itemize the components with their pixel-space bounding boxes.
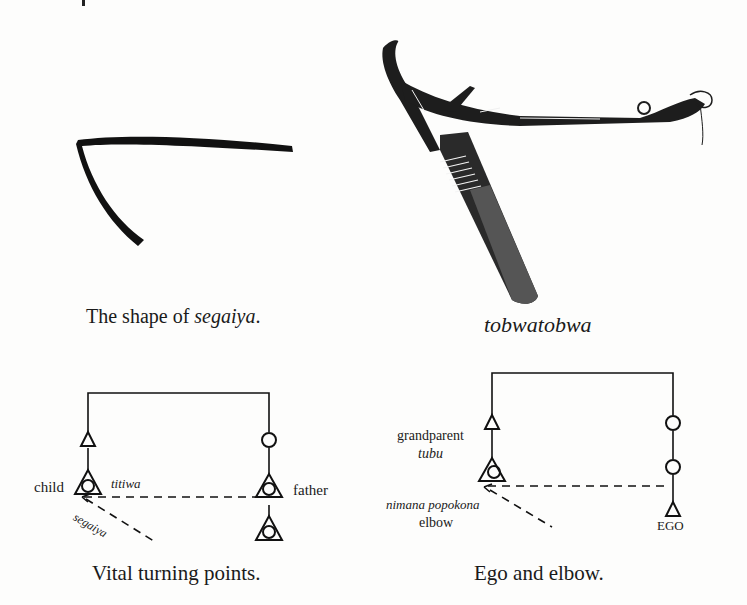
- diagram-right-lines: [484, 373, 673, 527]
- tobwatobwa-illustration: [382, 40, 712, 303]
- label-father: father: [293, 482, 328, 499]
- female-circle-icon: [82, 480, 94, 492]
- male-triangle-icon: [81, 432, 95, 446]
- label-tubu: tubu: [418, 446, 443, 462]
- diagram-right-symbols: [479, 415, 680, 516]
- male-triangle-icon: [666, 502, 680, 516]
- caption-segaiya-shape: The shape of segaiya.: [86, 305, 260, 328]
- caption-term: segaiya: [194, 305, 255, 327]
- caption-punct: .: [255, 305, 260, 327]
- male-triangle-icon: [256, 516, 282, 540]
- male-triangle-icon: [75, 470, 101, 494]
- female-circle-icon: [666, 416, 680, 430]
- caption-ego-and-elbow: Ego and elbow.: [474, 561, 604, 586]
- label-titiwa: titiwa: [111, 476, 141, 492]
- caption-vital-turning-points: Vital turning points.: [92, 561, 260, 586]
- label-elbow: elbow: [419, 515, 453, 531]
- female-circle-icon: [262, 433, 276, 447]
- caption-tobwatobwa: tobwatobwa: [484, 312, 592, 338]
- diagram-left-symbols: [75, 432, 282, 540]
- female-circle-icon: [263, 483, 275, 495]
- label-grandparent: grandparent: [397, 428, 464, 444]
- diagram-left-lines: [82, 393, 269, 543]
- caption-text: The shape of: [86, 305, 194, 327]
- figure-artwork: [0, 0, 747, 605]
- male-triangle-icon: [485, 415, 499, 429]
- male-triangle-icon: [256, 474, 282, 497]
- label-nimana-popokona: nimana popokona: [386, 497, 480, 513]
- label-ego: EGO: [657, 518, 684, 534]
- segaiya-shape: [76, 137, 293, 246]
- female-circle-icon: [666, 460, 680, 474]
- female-circle-icon: [263, 526, 275, 538]
- female-circle-icon: [488, 466, 500, 478]
- label-child: child: [34, 479, 64, 496]
